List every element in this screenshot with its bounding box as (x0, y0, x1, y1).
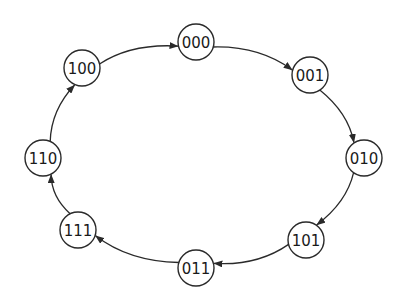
state-label: 110 (29, 150, 58, 168)
state-node-111: 111 (60, 212, 96, 248)
edge-010-to-101 (317, 173, 354, 225)
state-label: 000 (182, 34, 211, 52)
state-node-000: 000 (178, 24, 214, 60)
edge-111-to-110 (51, 175, 70, 214)
state-node-010: 010 (346, 140, 382, 176)
edge-011-to-111 (96, 236, 179, 263)
state-node-101: 101 (288, 222, 324, 258)
state-node-011: 011 (178, 250, 214, 286)
edge-100-to-000 (100, 46, 179, 64)
edge-101-to-011 (214, 244, 289, 263)
state-label: 001 (296, 67, 325, 85)
state-node-001: 001 (292, 57, 328, 93)
state-diagram: 000001010101011111110100 (0, 0, 401, 303)
edge-110-to-100 (50, 85, 74, 142)
state-label: 101 (292, 232, 321, 250)
state-label: 010 (350, 150, 379, 168)
nodes-layer: 000001010101011111110100 (25, 24, 382, 286)
edge-000-to-001 (213, 47, 292, 70)
edge-001-to-010 (320, 90, 354, 142)
state-label: 011 (182, 260, 211, 278)
state-node-110: 110 (25, 140, 61, 176)
state-label: 111 (64, 222, 93, 240)
state-label: 100 (68, 60, 97, 78)
state-node-100: 100 (64, 50, 100, 86)
